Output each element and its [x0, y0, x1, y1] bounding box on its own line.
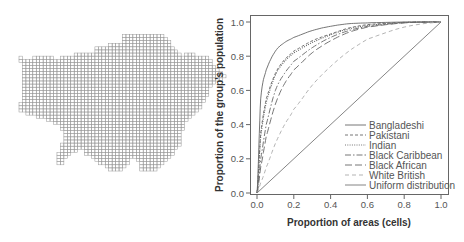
legend-label: Uniform distribution [369, 180, 455, 191]
y-axis-title: Proportion of the group's population [214, 18, 225, 192]
y-tick-label: 0.0 [231, 188, 244, 199]
x-tick-label: 0.4 [324, 199, 337, 210]
y-axis: 0.00.20.40.60.81.0 [231, 17, 251, 199]
y-tick-label: 0.4 [231, 119, 244, 130]
y-tick-label: 0.8 [231, 51, 244, 62]
x-tick-label: 1.0 [434, 199, 447, 210]
y-tick-label: 0.2 [231, 153, 244, 164]
x-axis-title: Proportion of areas (cells) [287, 217, 411, 228]
x-tick-label: 0.8 [398, 199, 411, 210]
lorenz-chart: 0.00.20.40.60.81.0 0.00.20.40.60.81.0 Ba… [0, 0, 464, 242]
legend: BangladeshiPakistaniIndianBlack Caribbea… [345, 120, 455, 191]
x-axis: 0.00.20.40.60.81.0 [250, 195, 447, 211]
y-tick-label: 0.6 [231, 85, 244, 96]
x-tick-label: 0.2 [287, 199, 300, 210]
x-tick-label: 0.0 [250, 199, 263, 210]
y-tick-label: 1.0 [231, 17, 244, 28]
x-tick-label: 0.6 [361, 199, 374, 210]
